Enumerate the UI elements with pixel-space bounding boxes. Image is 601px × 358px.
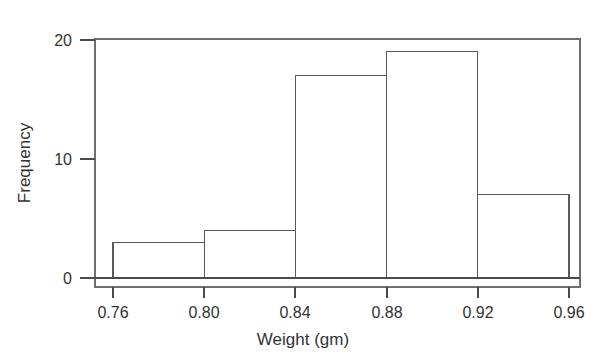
histogram-bar — [295, 76, 386, 278]
x-tick-label-1: 0.80 — [188, 304, 219, 321]
x-axis-tick-labels: 0.76 0.80 0.84 0.88 0.92 0.96 — [97, 304, 584, 321]
histogram-bar — [204, 230, 295, 278]
x-tick-label-3: 0.88 — [371, 304, 402, 321]
histogram-bars — [113, 52, 569, 278]
histogram-bar — [113, 242, 204, 278]
x-axis-ticks — [113, 287, 569, 298]
histogram-figure: Histogram of Weight 20 10 0 Frequency — [0, 0, 601, 358]
x-tick-label-5: 0.96 — [553, 304, 584, 321]
histogram-bar — [478, 195, 569, 278]
y-tick-label-10: 10 — [54, 151, 72, 168]
y-axis-tick-labels: 20 10 0 — [54, 32, 72, 287]
histogram-plot: 20 10 0 Frequency 0.76 0.80 0.84 0.88 0.… — [0, 0, 601, 358]
x-tick-label-0: 0.76 — [97, 304, 128, 321]
x-axis-title: Weight (gm) — [257, 330, 349, 349]
x-tick-label-4: 0.92 — [462, 304, 493, 321]
y-axis-title-group: Frequency — [15, 122, 34, 203]
y-axis-ticks — [80, 40, 95, 278]
y-tick-label-20: 20 — [54, 32, 72, 49]
y-tick-label-0: 0 — [63, 270, 72, 287]
histogram-bar — [387, 52, 478, 278]
x-tick-label-2: 0.84 — [279, 304, 310, 321]
y-axis-title: Frequency — [15, 122, 34, 203]
